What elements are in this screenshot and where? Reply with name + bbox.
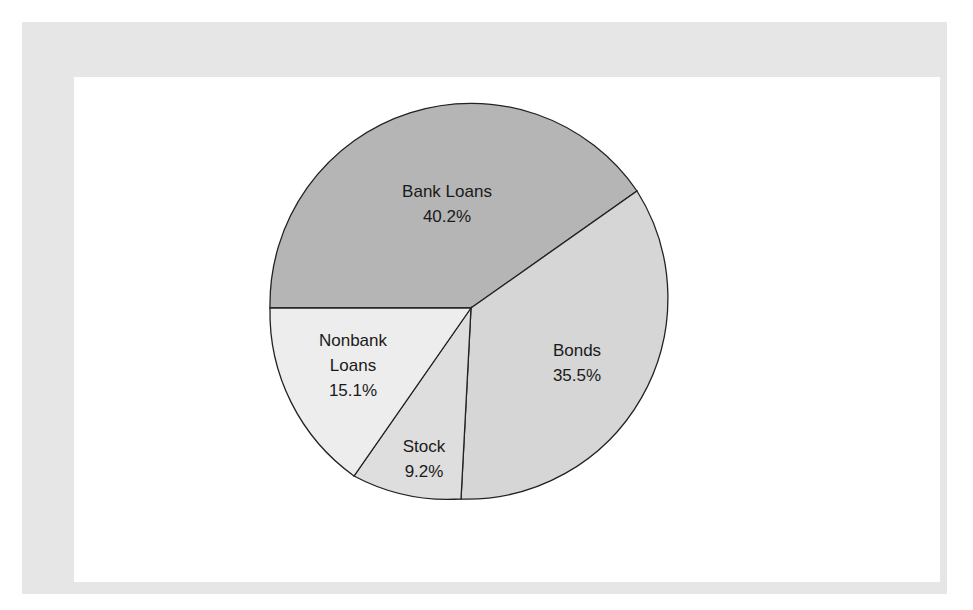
label-stock-name: Stock bbox=[403, 437, 446, 456]
label-bank-loans-name: Bank Loans bbox=[402, 182, 492, 201]
label-bonds-value: 35.5% bbox=[553, 366, 601, 385]
label-stock-value: 9.2% bbox=[405, 462, 444, 481]
label-nonbank-loans-name-1: Nonbank bbox=[319, 331, 388, 350]
label-nonbank-loans-value: 15.1% bbox=[329, 381, 377, 400]
label-nonbank-loans-name-2: Loans bbox=[330, 356, 376, 375]
label-bank-loans-value: 40.2% bbox=[423, 207, 471, 226]
label-bonds-name: Bonds bbox=[553, 341, 601, 360]
pie-chart: Bank Loans 40.2% Bonds 35.5% Stock 9.2% … bbox=[0, 0, 973, 610]
